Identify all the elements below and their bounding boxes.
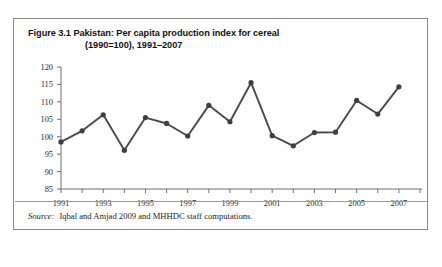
figure-title-line-1: Figure 3.1 Pakistan: Per capita producti… <box>28 28 279 38</box>
data-series-line <box>61 83 399 151</box>
y-axis-tick-label: 85 <box>45 185 53 194</box>
figure-title-line-2: (1990=100), 1991–2007 <box>28 39 408 51</box>
data-point-marker <box>375 111 380 116</box>
source-label: Source: <box>28 211 54 221</box>
data-point-marker <box>122 148 127 153</box>
data-point-marker <box>354 98 359 103</box>
data-point-marker <box>80 128 85 133</box>
data-point-marker <box>333 130 338 135</box>
data-point-marker <box>143 115 148 120</box>
y-axis-tick-label: 120 <box>40 63 53 72</box>
source-note: Source:Iqbal and Amjad 2009 and MHHDC st… <box>28 211 253 221</box>
chart-plot-area: 8590951001051101151201991199319951997199… <box>14 59 429 231</box>
data-point-marker <box>312 130 317 135</box>
data-point-marker <box>58 139 63 144</box>
data-point-marker <box>396 84 401 89</box>
y-axis-tick-label: 105 <box>40 115 53 124</box>
y-axis-tick-label: 95 <box>45 150 53 159</box>
figure-title: Figure 3.1 Pakistan: Per capita producti… <box>28 27 408 51</box>
y-axis-tick-label: 110 <box>41 98 53 107</box>
source-text: Iqbal and Amjad 2009 and MHHDC staff com… <box>59 211 252 221</box>
data-point-marker <box>270 133 275 138</box>
data-point-marker <box>227 119 232 124</box>
data-point-marker <box>248 80 253 85</box>
line-chart: 8590951001051101151201991199319951997199… <box>14 59 429 231</box>
y-axis-tick-label: 115 <box>41 80 53 89</box>
data-point-marker <box>291 143 296 148</box>
data-point-marker <box>164 121 169 126</box>
source-divider <box>15 201 428 202</box>
y-axis-tick-label: 90 <box>45 168 53 177</box>
y-axis-tick-label: 100 <box>40 133 53 142</box>
data-point-marker <box>206 103 211 108</box>
data-point-marker <box>101 112 106 117</box>
data-point-marker <box>185 133 190 138</box>
figure-container: Figure 3.1 Pakistan: Per capita producti… <box>13 18 428 230</box>
